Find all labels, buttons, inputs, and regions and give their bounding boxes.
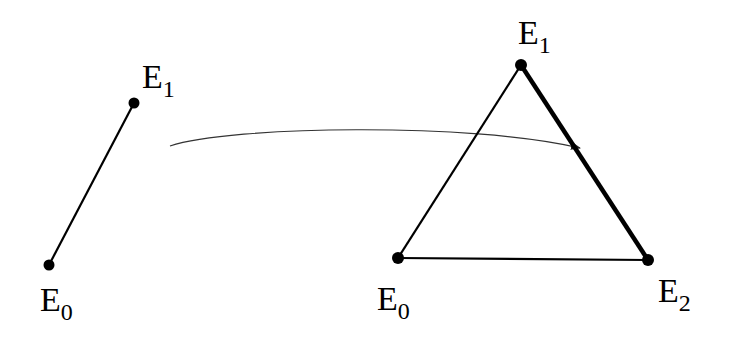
tri-vertex-e0 bbox=[392, 252, 404, 264]
edge-e0-e2 bbox=[398, 258, 648, 260]
left-segment bbox=[44, 98, 140, 271]
tri-label-e2: E2 bbox=[658, 272, 691, 316]
tri-vertex-e1 bbox=[515, 59, 527, 71]
diagram-canvas: E1 E0 E1 E0 E2 bbox=[0, 0, 734, 337]
triangle bbox=[392, 59, 654, 266]
tri-vertex-e2 bbox=[642, 254, 654, 266]
edge-e1-e2-bold bbox=[521, 65, 648, 260]
left-vertex-e1 bbox=[129, 98, 140, 109]
left-vertex-e0 bbox=[44, 260, 55, 271]
mapping-arrow bbox=[170, 130, 580, 148]
left-label-e0: E0 bbox=[40, 281, 73, 325]
tri-label-e1: E1 bbox=[518, 14, 551, 58]
left-label-e1: E1 bbox=[142, 58, 175, 102]
tri-label-e0: E0 bbox=[377, 280, 410, 324]
edge-e0-e1 bbox=[398, 65, 521, 258]
